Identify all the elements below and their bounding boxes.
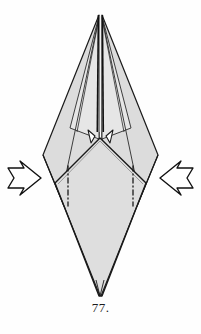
- origami-figure: 77.: [0, 0, 201, 334]
- center-spine-left: [97, 15, 98, 132]
- figure-caption: 77.: [0, 300, 201, 315]
- origami-diagram-svg: [0, 0, 201, 334]
- center-spine-right: [102, 15, 103, 132]
- left-push-arrow: [8, 161, 41, 195]
- right-push-arrow: [160, 161, 193, 195]
